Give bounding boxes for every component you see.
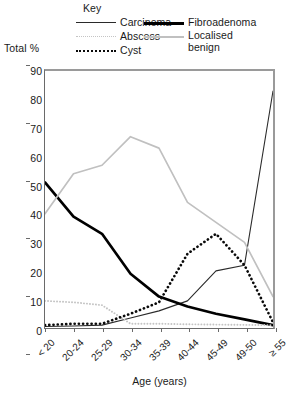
series-line-fibroadenoma bbox=[45, 182, 273, 325]
y-tick-mark bbox=[26, 123, 30, 124]
y-tick-mark bbox=[26, 238, 30, 239]
legend-items: Carcinoma Fibroadenoma Abscess Localised… bbox=[76, 16, 288, 58]
y-tick-label: 70 bbox=[30, 123, 42, 135]
x-tick-mark bbox=[189, 328, 190, 332]
chart-figure: Key Carcinoma Fibroadenoma Abscess bbox=[0, 0, 289, 394]
y-tick-label: 40 bbox=[30, 209, 42, 221]
x-tick-mark bbox=[132, 328, 133, 332]
line-swatch-icon bbox=[144, 30, 184, 43]
y-tick-label: 60 bbox=[30, 152, 42, 164]
line-swatch-icon bbox=[144, 16, 184, 29]
x-tick-mark bbox=[247, 328, 248, 332]
x-tick-mark bbox=[103, 328, 104, 332]
y-tick-label: 50 bbox=[30, 181, 42, 193]
legend-item-fibroadenoma: Fibroadenoma bbox=[144, 16, 222, 30]
x-tick-mark bbox=[161, 328, 162, 332]
series-line-carcinoma bbox=[45, 91, 273, 327]
legend-item-cyst: Cyst bbox=[76, 44, 140, 58]
legend-item-abscess: Abscess bbox=[76, 30, 140, 44]
y-tick-label: 80 bbox=[30, 94, 42, 106]
series-line-localised-benign bbox=[45, 137, 273, 297]
series-line-abscess bbox=[45, 301, 273, 325]
series-line-cyst bbox=[45, 234, 273, 325]
legend-title: Key bbox=[83, 2, 101, 14]
legend-item-carcinoma: Carcinoma bbox=[76, 16, 140, 30]
series-lines bbox=[45, 71, 273, 328]
legend-label: Localised benign bbox=[188, 30, 233, 53]
y-tick-label: 90 bbox=[30, 65, 42, 77]
y-axis-title: Total % bbox=[4, 42, 39, 54]
legend-item-localised-benign: Localised benign bbox=[144, 30, 222, 44]
dotted-swatch-icon bbox=[76, 30, 116, 43]
x-tick-mark bbox=[276, 328, 277, 332]
plot-area: 0102030405060708090< 2020-2425-2930-3435… bbox=[44, 69, 275, 329]
x-tick-mark bbox=[45, 328, 46, 332]
x-axis-title-text: Age (years) bbox=[102, 375, 186, 387]
legend-label: Fibroadenoma bbox=[188, 16, 256, 28]
y-tick-mark bbox=[26, 65, 30, 66]
y-tick-label: 30 bbox=[30, 238, 42, 250]
chart-legend: Key Carcinoma Fibroadenoma Abscess bbox=[76, 2, 288, 58]
y-tick-label: 10 bbox=[30, 296, 42, 308]
plot-wrapper: 0102030405060708090< 2020-2425-2930-3435… bbox=[0, 60, 289, 330]
legend-label: Cyst bbox=[120, 44, 141, 56]
y-tick-label: 0 bbox=[36, 325, 42, 337]
y-tick-mark bbox=[26, 181, 30, 182]
x-tick-mark bbox=[218, 328, 219, 332]
y-tick-mark bbox=[26, 296, 30, 297]
y-tick-label: 20 bbox=[30, 267, 42, 279]
x-axis-title: Age (years) bbox=[0, 375, 289, 387]
dotted-swatch-icon bbox=[76, 44, 116, 57]
x-tick-mark bbox=[74, 328, 75, 332]
line-swatch-icon bbox=[76, 16, 116, 29]
